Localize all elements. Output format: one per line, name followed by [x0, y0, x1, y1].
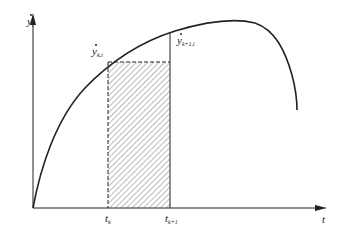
point-label-y-k: yk,i	[92, 46, 103, 58]
hatched-area	[108, 62, 170, 208]
x-axis	[33, 205, 327, 211]
diagram-canvas	[0, 0, 344, 231]
x-axis-label: t	[322, 214, 325, 225]
tick-label-t-k: tk	[105, 213, 111, 225]
point-label-y-k-plus-1: yk+1,i	[177, 35, 195, 47]
y-axis-label: yi	[27, 16, 34, 28]
y-axis	[30, 13, 36, 208]
x-axis-arrow-icon	[315, 205, 327, 211]
tick-label-t-k-plus-1: tk+1	[165, 213, 178, 225]
